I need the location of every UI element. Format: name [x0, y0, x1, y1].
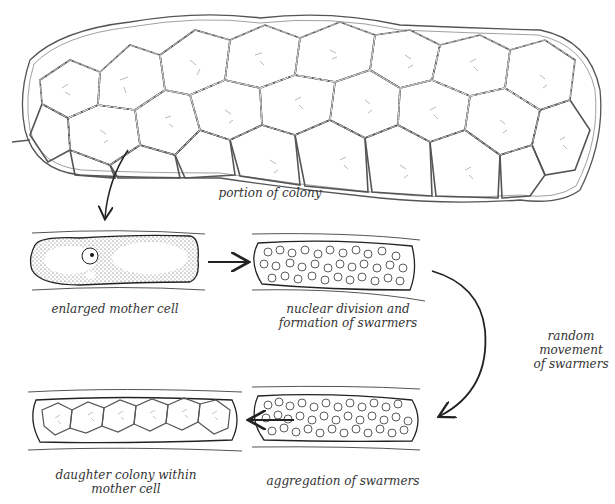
- label-random-line3: of swarmers: [533, 357, 608, 371]
- swarmer-formation-drawing: [252, 234, 425, 301]
- label-nuclear-division-line2: formation of swarmers: [279, 316, 418, 330]
- aggregation-drawing: [252, 386, 420, 450]
- mother-cell-drawing: [31, 231, 205, 290]
- label-aggregation: aggregation of swarmers: [258, 474, 428, 488]
- label-random-movement: random movement of swarmers: [528, 329, 614, 371]
- label-daughter-line2: mother cell: [91, 482, 160, 496]
- label-portion-of-colony: portion of colony: [200, 186, 340, 200]
- diagram-canvas: [0, 0, 615, 504]
- colony-net: [12, 15, 601, 202]
- label-daughter-colony: daughter colony within mother cell: [36, 468, 216, 496]
- label-random-line1: random: [548, 329, 595, 343]
- arrow-random-movement: [432, 271, 485, 416]
- label-nuclear-division-line1: nuclear division and: [286, 302, 409, 316]
- daughter-colony-drawing: [28, 390, 242, 452]
- label-nuclear-division: nuclear division and formation of swarme…: [268, 302, 428, 330]
- label-enlarged-mother-cell: enlarged mother cell: [40, 302, 190, 316]
- label-daughter-line1: daughter colony within: [55, 468, 196, 482]
- label-random-line2: movement: [539, 343, 603, 357]
